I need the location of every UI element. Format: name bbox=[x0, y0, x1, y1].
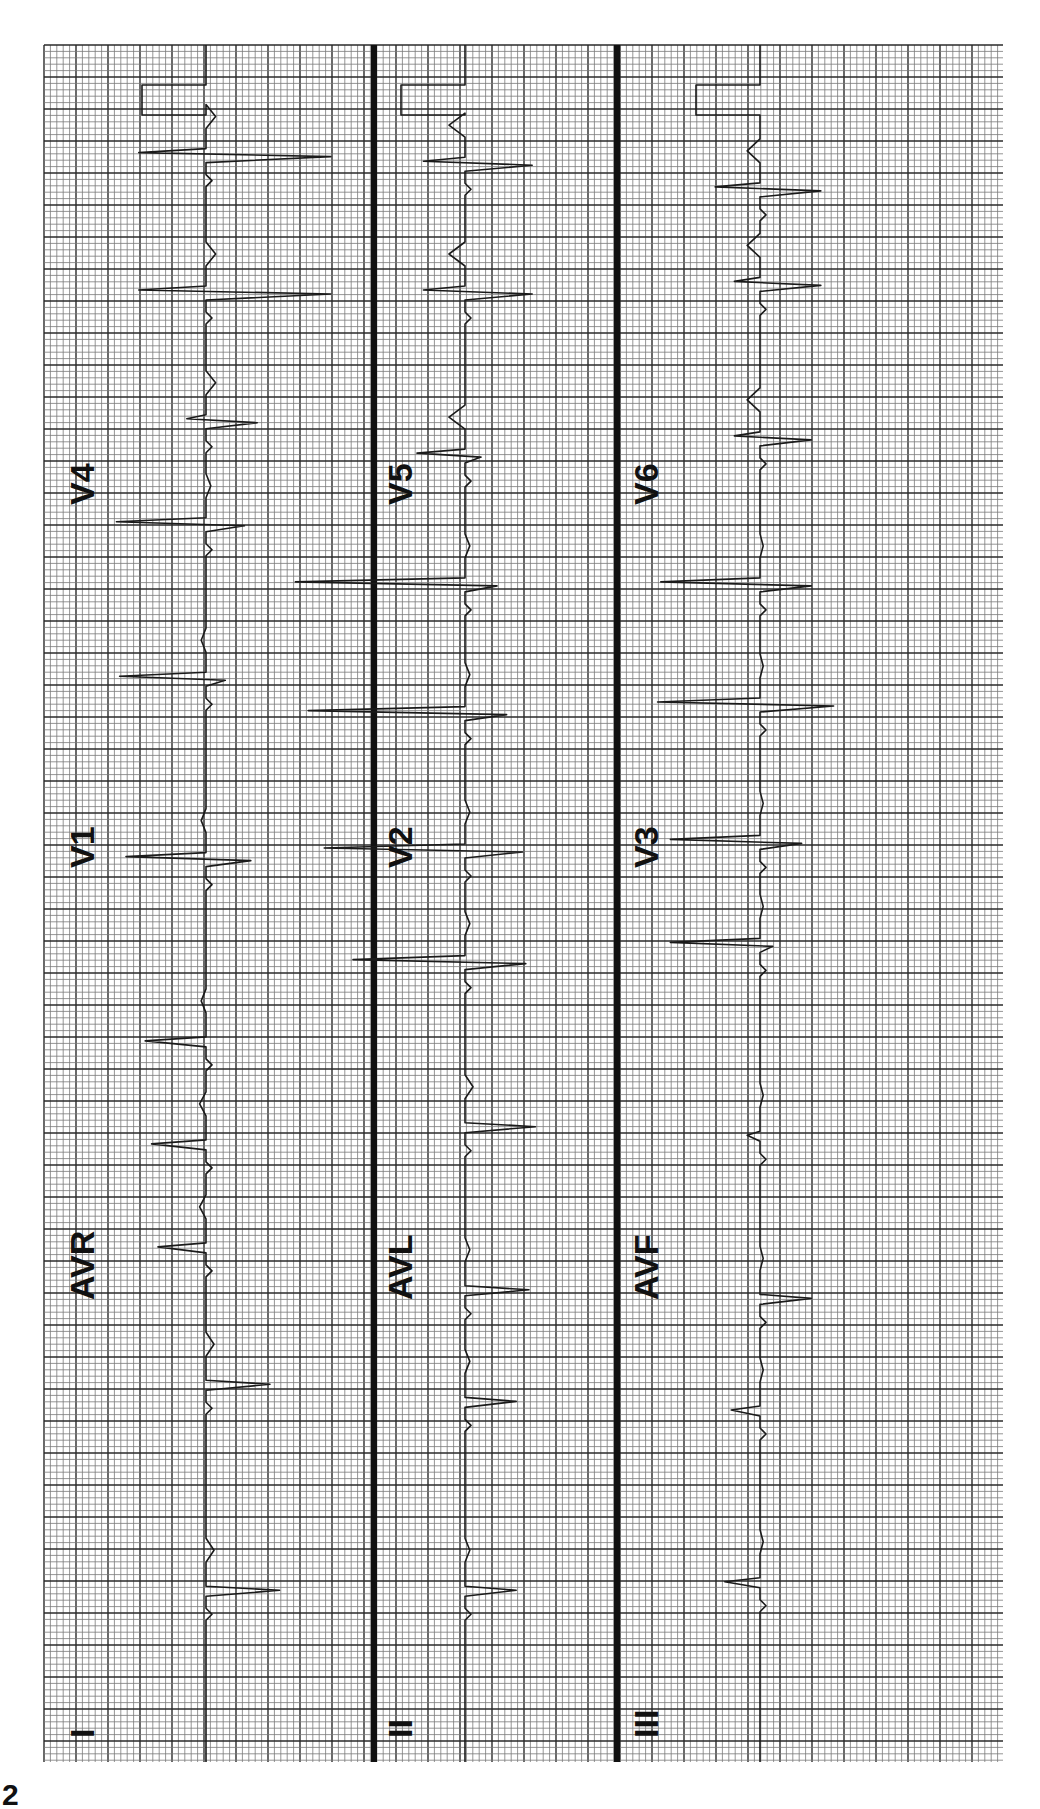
lead-label-v1: V1 bbox=[63, 826, 101, 868]
lead-label-avr: AVR bbox=[63, 1231, 101, 1300]
strip-divider bbox=[371, 45, 377, 1762]
ecg-grid bbox=[44, 45, 1003, 1762]
strip-divider bbox=[614, 45, 620, 1762]
lead-label-v6: V6 bbox=[627, 463, 665, 505]
lead-label-iii: III bbox=[627, 1710, 665, 1738]
lead-label-i: I bbox=[63, 1729, 101, 1738]
lead-label-avl: AVL bbox=[381, 1235, 419, 1300]
lead-label-ii: II bbox=[381, 1719, 419, 1738]
lead-label-v4: V4 bbox=[63, 463, 101, 505]
lead-label-v2: V2 bbox=[381, 826, 419, 868]
lead-label-v5: V5 bbox=[381, 463, 419, 505]
page-number: 2 bbox=[2, 1778, 19, 1809]
lead-label-v3: V3 bbox=[627, 826, 665, 868]
lead-label-avf: AVF bbox=[627, 1235, 665, 1300]
